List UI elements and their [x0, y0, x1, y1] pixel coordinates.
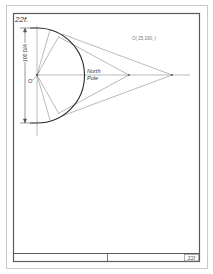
north-pole-label-1: North: [87, 68, 100, 74]
problem-number: 22f.: [14, 15, 28, 24]
drawing-sheet: 22f 22f. O( 25,190, ) 100 DIA: [0, 0, 213, 274]
north-pole-label-2: Pole: [87, 75, 98, 81]
title-block-number: 22f: [188, 255, 196, 261]
dimension-label: 100 DIA: [22, 43, 28, 62]
center-point: [36, 74, 38, 76]
apex-near: [128, 74, 130, 76]
apex-far: [171, 74, 173, 76]
coordinate-note: O( 25,190, ): [132, 36, 157, 41]
paper-edge: [7, 6, 208, 269]
